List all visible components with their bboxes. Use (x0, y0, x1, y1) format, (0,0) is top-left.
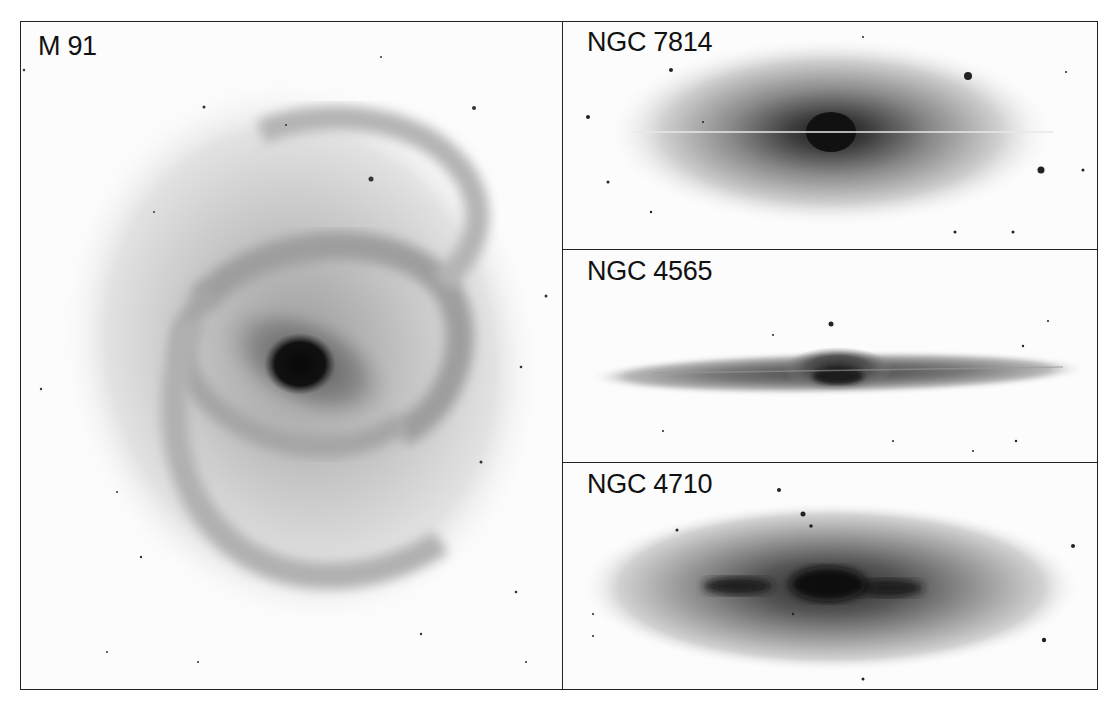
panel-label-ngc7814: NGC 7814 (587, 29, 712, 56)
panel-m91: M 91 (21, 22, 563, 689)
m91-galaxy-image (21, 22, 562, 689)
panel-ngc4565: NGC 4565 (563, 251, 1097, 463)
panel-ngc7814: NGC 7814 (563, 22, 1097, 250)
galaxy-figure: M 91 (20, 21, 1098, 690)
panel-label-ngc4710: NGC 4710 (587, 471, 712, 498)
panel-label-ngc4565: NGC 4565 (587, 258, 712, 285)
panel-ngc4710: NGC 4710 (563, 464, 1097, 689)
panel-label-m91: M 91 (38, 33, 97, 60)
